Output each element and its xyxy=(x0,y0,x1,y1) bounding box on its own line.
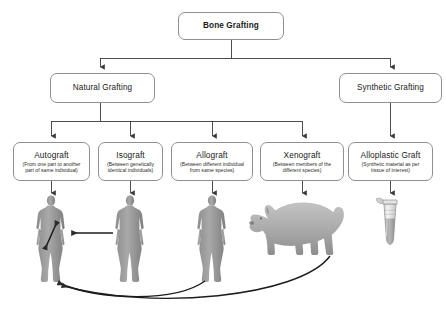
node-alloplastic-graft[interactable]: Alloplastic Graft (Synthetic material as… xyxy=(348,142,433,181)
node-natural-grafting[interactable]: Natural Grafting xyxy=(50,73,155,103)
node-allograft[interactable]: Allograft (Between different individual … xyxy=(171,142,253,181)
node-bone-grafting[interactable]: Bone Grafting xyxy=(178,12,284,40)
node-alloplastic-graft-description: (Synthetic material as per tissue of int… xyxy=(359,161,423,173)
node-xenograft[interactable]: Xenograft (Between members of the differ… xyxy=(260,142,344,181)
human-figure-autograft xyxy=(36,195,64,282)
node-alloplastic-graft-label: Alloplastic Graft xyxy=(361,150,421,160)
xenograft-transfer-arrow xyxy=(63,256,331,298)
node-allograft-description: (Between different individual from same … xyxy=(177,161,247,173)
node-xenograft-description: (Between members of the different specie… xyxy=(270,161,334,173)
node-autograft[interactable]: Autograft (From one part to another part… xyxy=(13,142,90,181)
node-bone-grafting-label: Bone Grafting xyxy=(203,21,259,31)
diagram-canvas: Bone Grafting Natural Grafting Synthetic… xyxy=(0,0,446,325)
node-natural-grafting-label: Natural Grafting xyxy=(73,83,132,93)
node-isograft[interactable]: Isograft (Between genetically identical … xyxy=(98,142,163,181)
node-autograft-label: Autograft xyxy=(34,150,69,160)
node-allograft-label: Allograft xyxy=(196,150,227,160)
node-autograft-description: (From one part to another part of same i… xyxy=(19,161,83,173)
node-synthetic-grafting-label: Synthetic Grafting xyxy=(357,83,424,93)
node-synthetic-grafting[interactable]: Synthetic Grafting xyxy=(339,73,442,103)
node-isograft-label: Isograft xyxy=(116,150,144,160)
node-xenograft-label: Xenograft xyxy=(284,150,321,160)
pig-figure-xenograft xyxy=(249,203,344,255)
human-figure-allograft xyxy=(197,195,225,282)
human-figure-isograft xyxy=(115,195,143,282)
node-isograft-description: (Between genetically identical individua… xyxy=(104,161,157,173)
allograft-transfer-arrow xyxy=(59,281,206,297)
microcentrifuge-tube-figure xyxy=(376,198,397,244)
